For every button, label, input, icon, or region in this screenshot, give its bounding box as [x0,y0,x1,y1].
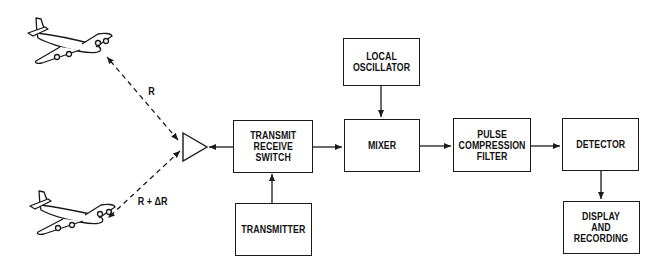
local-oscillator-block: LOCAL OSCILLATOR [343,38,420,86]
detector-block: DETECTOR [562,118,639,171]
block-label: DETECTOR [576,139,625,150]
display-and-recording-block: DISPLAY AND RECORDING [563,201,640,254]
antenna-icon [183,133,207,161]
range-line-r-plus-delta-r [108,151,180,218]
block-label: TRANSMIT RECEIVE SWITCH [250,130,296,163]
block-label: TRANSMITTER [241,224,305,235]
block-label: PULSE COMPRESSION FILTER [459,129,526,162]
range-label-r: R [148,86,155,97]
block-label: MIXER [368,140,396,151]
block-label: DISPLAY AND RECORDING [574,211,629,244]
radar-block-diagram: R R + ΔR TRANSMIT RECEIVE SWITCH TRANSMI… [0,0,665,275]
transmitter-block: TRANSMITTER [235,203,312,256]
mixer-block: MIXER [344,119,420,172]
aircraft-icon [30,191,115,234]
aircraft-icon [28,18,112,63]
transmit-receive-switch-block: TRANSMIT RECEIVE SWITCH [233,120,313,173]
range-label-r-plus-delta-r: R + ΔR [138,196,168,207]
pulse-compression-filter-block: PULSE COMPRESSION FILTER [453,118,531,172]
block-label: LOCAL OSCILLATOR [353,51,410,73]
range-line-r [107,57,178,140]
